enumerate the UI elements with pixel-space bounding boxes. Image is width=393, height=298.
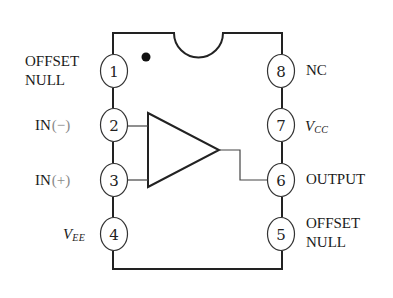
pin8-label: NC (306, 61, 327, 80)
pin-number: 5 (276, 226, 286, 244)
pin-number: 8 (276, 63, 286, 81)
package-outline (113, 33, 282, 269)
pin-2: 2 (101, 109, 128, 142)
pin4-label-text: V (63, 226, 72, 242)
op-amp-triangle-icon (148, 113, 219, 187)
pin5-label: OFFSET NULL (306, 214, 360, 252)
pin3-label-text: IN (35, 172, 51, 188)
pin8-label-text: NC (306, 62, 327, 78)
pin7-label-subscript: CC (314, 124, 328, 135)
pin2-label-text: IN (35, 117, 51, 133)
pin7-label: VCC (305, 117, 329, 139)
pin-6: 6 (268, 164, 295, 197)
pin1-label-line1: OFFSET (25, 52, 79, 71)
pin-8: 8 (268, 55, 295, 88)
pin1-label: OFFSET NULL (25, 52, 79, 90)
pin1-indicator-dot (142, 53, 151, 62)
pin3-label-sign: (+) (52, 172, 70, 188)
pin-3: 3 (101, 164, 128, 197)
pin-5: 5 (268, 218, 295, 251)
pin4-label: VEE (63, 225, 85, 247)
pin-number: 6 (276, 172, 286, 190)
pin-number: 4 (109, 226, 119, 244)
pin1-label-line2: NULL (25, 71, 79, 90)
pin-number: 1 (109, 63, 119, 81)
pin-number: 2 (109, 117, 119, 135)
pin-7: 7 (268, 109, 295, 142)
pin-1: 1 (101, 55, 128, 88)
pin5-label-line2: NULL (306, 233, 360, 252)
pin2-label-sign: (−) (52, 117, 70, 133)
ic-pinout-diagram: 1 2 3 4 8 7 6 5 (0, 0, 393, 298)
pin-number: 7 (276, 117, 286, 135)
pin6-label: OUTPUT (306, 170, 365, 189)
pin6-label-text: OUTPUT (306, 171, 365, 187)
pin7-label-text: V (305, 118, 314, 134)
pin4-label-subscript: EE (72, 232, 85, 243)
pin-4: 4 (101, 218, 128, 251)
pin3-label: IN(+) (35, 171, 70, 190)
pin-number: 3 (109, 172, 119, 190)
pin2-label: IN(−) (35, 116, 70, 135)
wire-output (219, 150, 268, 180)
pin5-label-line1: OFFSET (306, 214, 360, 233)
